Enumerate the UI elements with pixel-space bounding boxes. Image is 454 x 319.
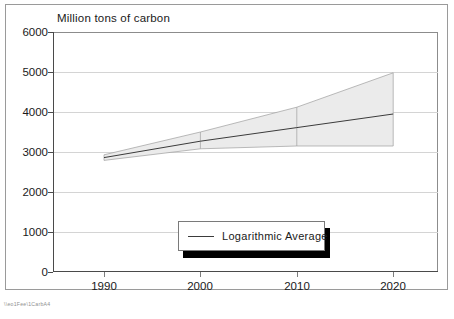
y-tick-label-1000: 1000 xyxy=(0,227,48,239)
legend-item-logarithmic-average: Logarithmic Average xyxy=(179,222,324,250)
chart-legend: Logarithmic Average xyxy=(178,221,325,251)
uncertainty-band xyxy=(104,73,393,161)
legend-line-swatch-icon xyxy=(188,236,214,237)
x-tick-label-2010: 2010 xyxy=(274,281,320,293)
y-tick-label-4000: 4000 xyxy=(0,107,48,119)
x-tick-mark-2020 xyxy=(393,272,394,277)
legend-item-label: Logarithmic Average xyxy=(222,230,328,242)
footer-file-path: \\eo1Fee\1CarbA4 xyxy=(4,301,50,307)
y-tick-label-5000: 5000 xyxy=(0,67,48,79)
y-tick-label-0: 0 xyxy=(0,267,48,279)
y-tick-label-2000: 2000 xyxy=(0,187,48,199)
chart-title: Million tons of carbon xyxy=(57,12,170,24)
x-tick-mark-1990 xyxy=(104,272,105,277)
x-tick-label-1990: 1990 xyxy=(81,281,127,293)
x-tick-mark-2000 xyxy=(200,272,201,277)
chart-figure: Million tons of carbon 6000 5000 4000 30… xyxy=(0,0,454,319)
y-tick-mark-0 xyxy=(48,272,53,273)
x-tick-mark-2010 xyxy=(297,272,298,277)
y-axis-labels: 6000 5000 4000 3000 2000 1000 0 xyxy=(0,0,48,319)
x-tick-label-2020: 2020 xyxy=(370,281,416,293)
y-tick-label-3000: 3000 xyxy=(0,147,48,159)
y-tick-label-6000: 6000 xyxy=(0,27,48,39)
x-tick-label-2000: 2000 xyxy=(177,281,223,293)
